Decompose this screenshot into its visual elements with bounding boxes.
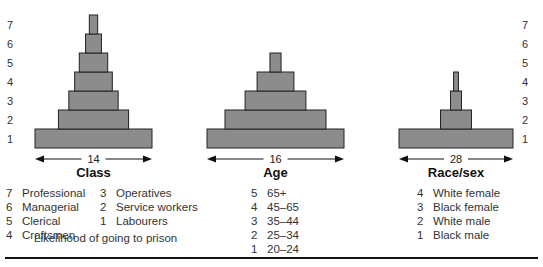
span-label: 14 bbox=[87, 153, 99, 165]
y-tick-right: 4 bbox=[522, 76, 528, 88]
bar-racesex-2 bbox=[441, 110, 472, 129]
legend-item: 3Operatives bbox=[100, 186, 198, 200]
legend-label: 35–44 bbox=[267, 215, 299, 227]
legend-label: Operatives bbox=[116, 187, 172, 199]
bar-class-1 bbox=[35, 129, 152, 148]
legend-item: 7Professional bbox=[6, 186, 85, 200]
arrow-right-icon bbox=[504, 156, 513, 163]
span-label: 28 bbox=[450, 153, 462, 165]
legend-label: Black female bbox=[433, 201, 499, 213]
legend-number: 3 bbox=[251, 214, 267, 228]
legend-item: 4White female bbox=[417, 186, 500, 200]
bar-age-2 bbox=[225, 110, 326, 129]
legend-number: 1 bbox=[417, 228, 433, 242]
legend-number: 4 bbox=[6, 228, 22, 242]
bar-class-6 bbox=[86, 34, 102, 53]
bar-racesex-4 bbox=[454, 72, 459, 91]
bar-class-4 bbox=[75, 72, 113, 91]
y-tick-left: 5 bbox=[7, 57, 13, 69]
bottom-rule bbox=[5, 257, 538, 259]
y-tick-left: 3 bbox=[7, 95, 13, 107]
chart-title: Age bbox=[263, 165, 288, 180]
span-label: 16 bbox=[269, 153, 281, 165]
legend-number: 5 bbox=[251, 186, 267, 200]
y-tick-right: 5 bbox=[522, 57, 528, 69]
bar-class-7 bbox=[89, 15, 97, 34]
legend-number: 2 bbox=[251, 228, 267, 242]
legend-number: 3 bbox=[100, 186, 116, 200]
arrow-left-icon bbox=[399, 156, 408, 163]
legend-number: 6 bbox=[6, 200, 22, 214]
legend-label: Professional bbox=[22, 187, 85, 199]
legend-item: 2White male bbox=[417, 214, 500, 228]
legend-label: White female bbox=[433, 187, 500, 199]
arrow-left-icon bbox=[207, 156, 216, 163]
legend-label: 65+ bbox=[267, 187, 287, 199]
y-tick-right: 7 bbox=[522, 19, 528, 31]
legend-number: 5 bbox=[6, 214, 22, 228]
arrow-left-icon bbox=[35, 156, 44, 163]
legend-item: 335–44 bbox=[251, 214, 299, 228]
y-tick-right: 2 bbox=[522, 114, 528, 126]
legend-number: 2 bbox=[100, 200, 116, 214]
bar-class-3 bbox=[69, 91, 118, 110]
legend-label: Clerical bbox=[22, 215, 60, 227]
y-tick-left: 2 bbox=[7, 114, 13, 126]
legend-number: 4 bbox=[417, 186, 433, 200]
chart-title: Race/sex bbox=[428, 165, 485, 180]
legend-number: 1 bbox=[251, 242, 267, 256]
bar-class-5 bbox=[79, 53, 107, 72]
legend-label: 20–24 bbox=[267, 243, 299, 255]
legend-label: Service workers bbox=[116, 201, 198, 213]
y-tick-right: 6 bbox=[522, 38, 528, 50]
y-tick-right: 3 bbox=[522, 95, 528, 107]
bar-racesex-1 bbox=[399, 129, 513, 148]
arrow-right-icon bbox=[335, 156, 344, 163]
legend-label: Labourers bbox=[116, 215, 168, 227]
y-tick-left: 6 bbox=[7, 38, 13, 50]
legend-number: 3 bbox=[417, 200, 433, 214]
legend-item: 5Clerical bbox=[6, 214, 85, 228]
legend-number: 4 bbox=[251, 200, 267, 214]
arrow-right-icon bbox=[143, 156, 152, 163]
bar-class-2 bbox=[58, 110, 128, 129]
legend-race: 4White female3Black female2White male1Bl… bbox=[417, 186, 500, 242]
legend-class-col2: 3Operatives2Service workers1Labourers bbox=[100, 186, 198, 228]
legend-label: 25–34 bbox=[267, 229, 299, 241]
legend-item: 6Managerial bbox=[6, 200, 85, 214]
figure-caption: Likelihood of going to prison bbox=[34, 232, 177, 244]
bar-age-5 bbox=[270, 53, 281, 72]
bar-age-4 bbox=[257, 72, 294, 91]
bar-age-3 bbox=[245, 91, 306, 110]
legend-item: 565+ bbox=[251, 186, 299, 200]
y-tick-right: 1 bbox=[522, 133, 528, 145]
legend-label: Black male bbox=[433, 229, 489, 241]
legend-item: 225–34 bbox=[251, 228, 299, 242]
legend-label: Managerial bbox=[22, 201, 79, 213]
legend-item: 3Black female bbox=[417, 200, 500, 214]
legend-item: 445–65 bbox=[251, 200, 299, 214]
bar-age-1 bbox=[207, 129, 344, 148]
bar-racesex-3 bbox=[451, 91, 462, 110]
y-tick-left: 4 bbox=[7, 76, 13, 88]
legend-item: 120–24 bbox=[251, 242, 299, 256]
y-tick-left: 7 bbox=[7, 19, 13, 31]
legend-number: 1 bbox=[100, 214, 116, 228]
chart-title: Class bbox=[76, 165, 111, 180]
legend-label: White male bbox=[433, 215, 491, 227]
legend-number: 2 bbox=[417, 214, 433, 228]
y-tick-left: 1 bbox=[7, 133, 13, 145]
legend-item: 1Black male bbox=[417, 228, 500, 242]
legend-age: 565+445–65335–44225–34120–24 bbox=[251, 186, 299, 256]
legend-item: 2Service workers bbox=[100, 200, 198, 214]
legend-label: 45–65 bbox=[267, 201, 299, 213]
legend-item: 1Labourers bbox=[100, 214, 198, 228]
legend-number: 7 bbox=[6, 186, 22, 200]
